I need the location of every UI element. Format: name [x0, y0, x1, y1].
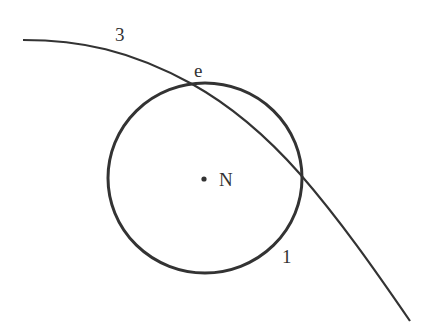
center-point: [201, 176, 206, 181]
label-center-n: N: [219, 170, 233, 189]
diagram-canvas: 3 e N 1: [0, 0, 428, 336]
diagram-svg: [0, 0, 428, 336]
label-circle-1: 1: [282, 247, 292, 266]
label-intersection-e: e: [194, 61, 202, 80]
label-curve-3: 3: [115, 25, 125, 44]
